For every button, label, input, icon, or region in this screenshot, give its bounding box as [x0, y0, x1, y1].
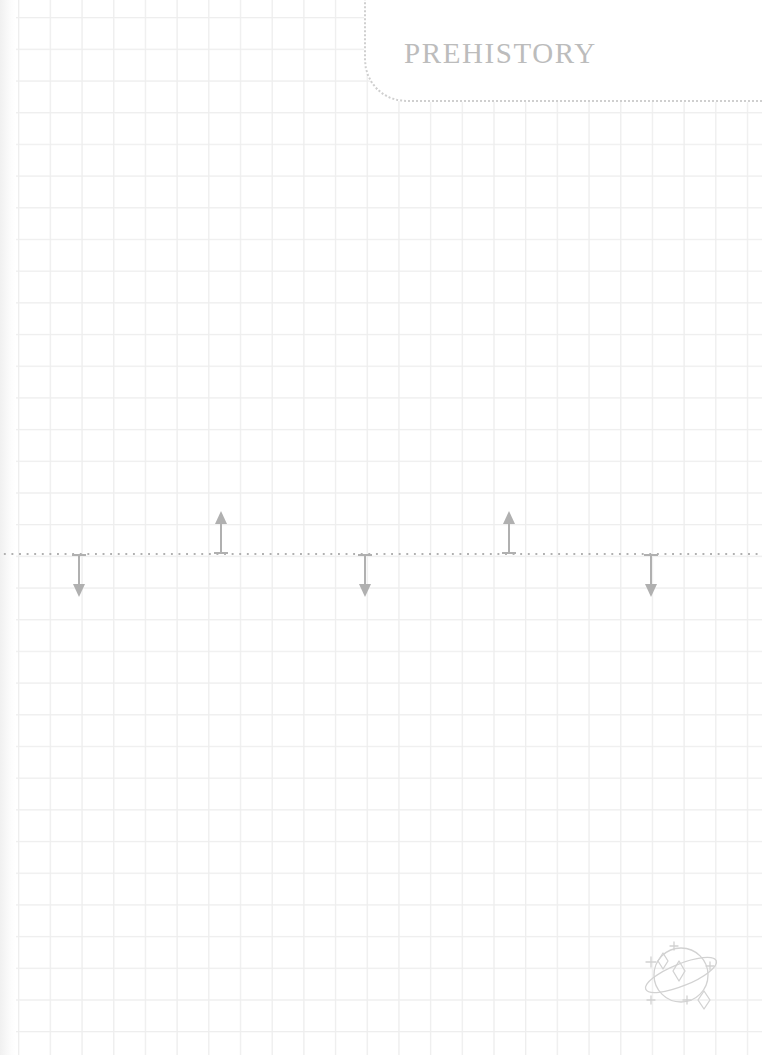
timeline-marker-stem [364, 555, 366, 586]
arrow-up-icon [503, 511, 515, 524]
arrow-down-icon [73, 584, 85, 597]
arrow-up-icon [215, 511, 227, 524]
timeline-marker-5[interactable] [643, 554, 659, 598]
timeline-marker-stem [650, 555, 652, 586]
timeline-worksheet-page: PREHISTORY [0, 0, 762, 1055]
timeline-marker-3[interactable] [357, 554, 373, 598]
arrow-down-icon [645, 584, 657, 597]
timeline-marker-stem [78, 555, 80, 586]
timeline-marker-1[interactable] [71, 554, 87, 598]
planet-with-ring-and-sparkles-icon [631, 930, 727, 1020]
timeline-marker-stem [508, 522, 510, 553]
grid-background [0, 0, 762, 1055]
timeline-marker-4[interactable] [501, 510, 517, 554]
timeline-marker-2[interactable] [213, 510, 229, 554]
arrow-down-icon [359, 584, 371, 597]
timeline-marker-stem [220, 522, 222, 553]
page-title: PREHISTORY [404, 37, 597, 70]
